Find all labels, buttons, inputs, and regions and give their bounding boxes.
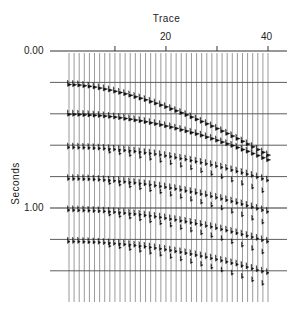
chart-title: Trace (0, 13, 303, 24)
x-axis-ticks (115, 46, 268, 51)
y-tick-label-1: 1.00 (24, 202, 43, 213)
x-tick-label-40: 40 (261, 31, 272, 42)
x-tick-label-20: 20 (160, 31, 171, 42)
seismic-trace-plot (0, 0, 303, 320)
y-tick-label-0: 0.00 (24, 45, 43, 56)
trace-wiggles (68, 53, 271, 302)
y-axis-label: Seconds (10, 162, 21, 204)
